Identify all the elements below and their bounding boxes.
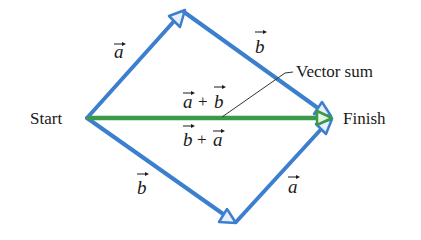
leader-line [222,72,293,117]
vector-arrow-icon [255,30,267,34]
svg-text:b: b [183,129,193,150]
svg-text:b: b [255,36,265,57]
label-b-plus-a: b + a [183,124,225,150]
vector-arrow-icon [183,124,195,128]
start-label: Start [30,109,62,128]
vector-a-top [87,10,185,118]
vector-arrow-icon [214,85,226,89]
label-a-plus-b: a + b [183,85,226,112]
svg-text:+: + [197,130,207,149]
label-a-top: a [114,41,126,62]
vector-sum [87,111,332,125]
vector-addition-diagram: Start Finish Vector sum a b b a a [0,0,421,240]
vector-a-bottom [236,119,332,222]
svg-text:b: b [137,177,147,198]
svg-text:a: a [288,176,298,197]
label-a-bottom: a [288,175,300,197]
vector-arrow-icon [137,172,149,176]
vector-sum-label: Vector sum [296,62,373,81]
finish-label: Finish [343,109,386,128]
svg-text:+: + [198,92,208,111]
label-b-bottom: b [137,172,149,198]
svg-text:b: b [214,91,224,112]
label-b-top: b [255,30,267,57]
